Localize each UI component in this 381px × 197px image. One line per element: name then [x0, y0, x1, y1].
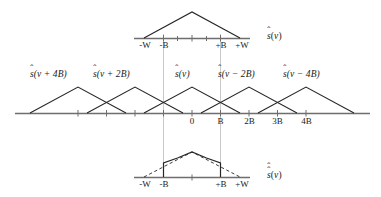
middle-panel-graph — [15, 87, 370, 117]
s-hat-glyph-r5: ̂s — [283, 70, 287, 80]
replica-label-arg-3: (ν) — [179, 69, 190, 79]
bottom-panel-graph — [134, 152, 250, 181]
replica-label-arg-1: (ν + 4B) — [34, 69, 67, 79]
top-panel-graph — [134, 12, 250, 42]
figure-canvas — [0, 0, 381, 197]
bottom-tick-label-plus-w: +W — [232, 180, 252, 189]
bottom-dashed-original-triangle — [144, 152, 240, 177]
s-hat-glyph-r1: ̂s — [30, 70, 34, 80]
top-tick-label-plus-b: +B — [211, 41, 231, 50]
top-tick-label-minus-b: -B — [155, 41, 173, 50]
replica-label-arg-4: (ν − 2B) — [222, 69, 255, 79]
bottom-curve-label: ̂̂s(ν) — [267, 171, 282, 181]
replica-label-plus-4b: ̂s(ν + 4B) — [30, 70, 67, 80]
replica-label-minus-4b: ̂s(ν − 4B) — [283, 70, 320, 80]
bottom-tick-label-minus-b: -B — [155, 180, 173, 189]
bottom-aliased-sum-curve — [164, 152, 221, 177]
middle-tick-label-3b: 3B — [268, 117, 287, 126]
top-tick-label-plus-w: +W — [232, 41, 252, 50]
s-hat-glyph-r4: ̂s — [218, 70, 222, 80]
s-hat-glyph-top: ̂s — [267, 32, 271, 42]
s-double-hat-glyph: ̂̂s — [267, 171, 271, 181]
replica-label-arg-5: (ν − 4B) — [287, 69, 320, 79]
replica-label-arg-2: (ν + 2B) — [97, 69, 130, 79]
middle-tick-label-0: 0 — [185, 117, 199, 126]
replica-label-minus-2b: ̂s(ν − 2B) — [218, 70, 255, 80]
middle-tick-label-b: B — [213, 117, 228, 126]
middle-tick-label-4b: 4B — [297, 117, 316, 126]
bottom-tick-label-plus-b: +B — [211, 180, 231, 189]
replica-label-center: ̂s(ν) — [175, 70, 190, 80]
top-label-paren-close: ) — [278, 31, 281, 41]
s-hat-glyph-r2: ̂s — [93, 70, 97, 80]
bottom-tick-label-minus-w: -W — [136, 180, 154, 189]
s-hat-glyph-r3: ̂s — [175, 70, 179, 80]
aliasing-figure: -W -B +B +W ̂s(ν) ̂s(ν + 4B) ̂s(ν + 2B) … — [0, 0, 381, 197]
top-tick-label-minus-w: -W — [136, 41, 154, 50]
guide-lines — [164, 34, 221, 178]
middle-tick-label-2b: 2B — [240, 117, 259, 126]
replica-label-plus-2b: ̂s(ν + 2B) — [93, 70, 130, 80]
top-curve-label: ̂s(ν) — [267, 32, 282, 42]
top-spectrum-triangle — [144, 12, 240, 38]
bottom-label-paren-close: ) — [278, 170, 281, 180]
